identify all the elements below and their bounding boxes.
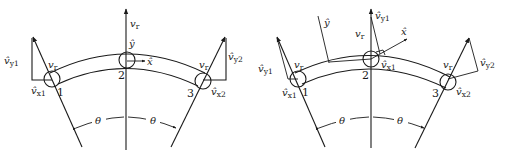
label-node-2: 2 [362,69,369,82]
label-vhat-y1-left: v̂y1 [258,63,273,76]
label-vhat-x2: v̂x2 [211,86,226,99]
vhat-y1-mid-line [371,17,380,54]
label-vhat-y1: v̂y1 [4,55,19,68]
beam-outer-edge [50,54,205,73]
label-node-3: 3 [432,87,439,100]
xhat-axis [371,39,407,59]
label-vr-node1: vr [48,59,58,72]
label-vhat-x1: v̂x1 [31,85,46,98]
beam-inner-edge [58,68,198,86]
label-xhat: x̂ [147,56,153,67]
beam-inner-edge [302,69,446,88]
label-vhat-y2: v̂y2 [228,51,243,64]
label-node-3: 3 [187,87,194,100]
curved-beam-figure: vr ŷ x̂ 2 1 3 vr vr v̂y1 v̂x1 v̂y2 v̂x2 … [0,0,509,159]
label-node-2: 2 [118,69,125,82]
left-panel: vr ŷ x̂ 2 1 3 vr vr v̂y1 v̂x1 v̂y2 v̂x2 … [4,9,243,150]
label-yhat: ŷ [128,38,135,49]
label-vr-top: vr [130,18,140,31]
label-vr-node1: vr [294,59,304,72]
label-vhat-y2: v̂y2 [480,57,495,70]
label-vr-node3: vr [199,59,209,72]
label-theta-right: θ [150,115,156,126]
label-node-1: 1 [57,86,64,99]
label-theta-left: θ [95,115,101,126]
label-yhat: ŷ [323,17,330,28]
label-node-1: 1 [302,86,309,99]
right-panel: vr ŷ x̂ v̂y1 v̂x1 2 1 3 vr vr v̂y1 v̂x1 … [258,9,495,148]
label-xhat: x̂ [401,26,407,37]
label-vr-top: vr [355,28,365,41]
label-theta-right: θ [397,115,403,126]
label-vhat-y1-mid: v̂y1 [375,10,390,23]
label-theta-left: θ [339,115,345,126]
label-vhat-x2: v̂x2 [456,86,471,99]
label-vhat-x1-left: v̂x1 [282,87,297,100]
label-vr-node3: vr [443,59,453,72]
